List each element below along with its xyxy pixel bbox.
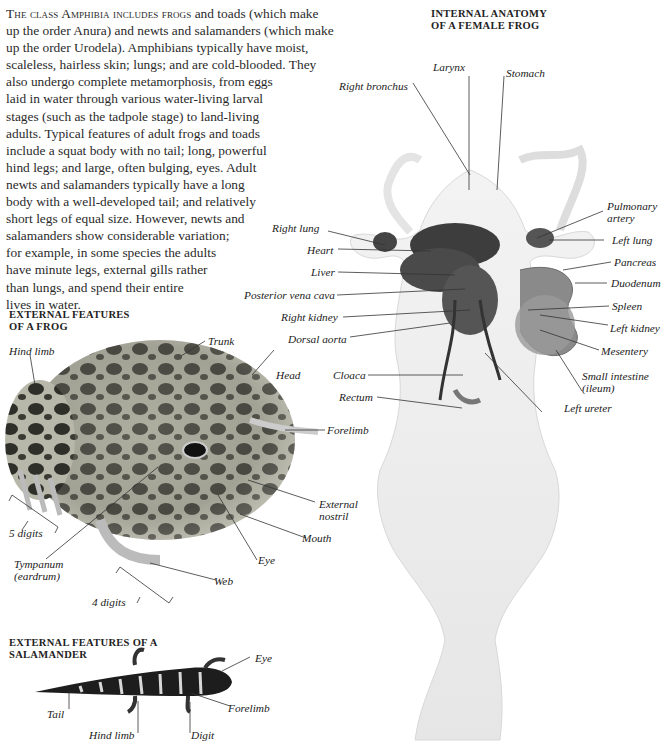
label-pulmonary-artery: Pulmonaryartery [607, 200, 657, 224]
intro-line: scaleless, hairless skin; lungs; and are… [6, 56, 336, 73]
label-pancreas: Pancreas [614, 256, 656, 268]
label-frog-hind-limb: Hind limb [9, 345, 55, 357]
label-heart: Heart [307, 244, 333, 256]
intro-line: have minute legs, external gills rather [6, 261, 336, 278]
label-posterior-vena-cava: Posterior vena cava [244, 289, 335, 301]
intro-line: stages (such as the tadpole stage) to la… [6, 108, 336, 125]
label-left-lung: Left lung [612, 234, 652, 246]
label-trunk: Trunk [208, 335, 234, 347]
frog-external-heading: EXTERNAL FEATURES OF A FROG [9, 309, 130, 332]
label-digit: Digit [191, 729, 214, 741]
label-head: Head [276, 369, 300, 381]
label-spleen: Spleen [612, 300, 642, 312]
intro-line: up the order Anura) and newts and salama… [6, 22, 336, 39]
intro-line: for example, in some species the adults [6, 244, 336, 261]
label-right-lung: Right lung [272, 222, 319, 234]
label-larynx: Larynx [433, 61, 465, 73]
label-cloaca: Cloaca [333, 369, 366, 381]
label-liver: Liver [311, 266, 335, 278]
label-stomach: Stomach [506, 67, 545, 79]
label-frog-forelimb: Forelimb [327, 424, 369, 436]
intro-line: adults. Typical features of adult frogs … [6, 125, 336, 142]
label-salamander-hind-limb: Hind limb [89, 729, 135, 741]
label-right-kidney: Right kidney [281, 311, 338, 323]
intro-line: body with a well-developed tail; and rel… [6, 193, 336, 210]
intro-line: hind legs; and large, often bulging, eye… [6, 159, 336, 176]
label-tail: Tail [47, 708, 64, 720]
label-five-digits: 5 digits [9, 527, 43, 539]
label-web: Web [214, 575, 233, 587]
intro-lead: The class Amphibia includes frogs [6, 6, 191, 21]
intro-line: newts and salamanders typically have a l… [6, 176, 336, 193]
label-small-intestine: Small intestine(ileum) [582, 370, 649, 394]
salamander-external-heading: EXTERNAL FEATURES OF A SALAMANDER [9, 637, 158, 660]
intro-line: include a squat body with no tail; long,… [6, 142, 336, 159]
label-mesentery: Mesentery [601, 345, 648, 357]
label-right-bronchus: Right bronchus [339, 80, 408, 92]
label-salamander-forelimb: Forelimb [228, 702, 270, 714]
intro-line: up the order Urodela). Amphibians typica… [6, 39, 336, 56]
label-frog-eye: Eye [258, 554, 275, 566]
label-left-ureter: Left ureter [564, 402, 612, 414]
label-left-kidney: Left kidney [610, 322, 660, 334]
intro-line-1: The class Amphibia includes frogs and to… [6, 5, 336, 22]
label-external-nostril: Externalnostril [319, 498, 358, 522]
dissected-frog-illustration [350, 150, 594, 740]
label-duodenum: Duodenum [611, 277, 661, 289]
label-mouth: Mouth [302, 532, 332, 544]
label-rectum: Rectum [339, 391, 373, 403]
intro-paragraph: The class Amphibia includes frogs and to… [6, 5, 336, 313]
horned-frog-photo [5, 340, 318, 560]
label-dorsal-aorta: Dorsal aorta [288, 333, 347, 345]
label-four-digits: 4 digits [92, 596, 126, 608]
label-tympanum: Tympanum(eardrum) [14, 558, 63, 582]
intro-line: also undergo complete metamorphosis, fro… [6, 73, 336, 90]
intro-line: laid in water through various water-livi… [6, 90, 336, 107]
label-salamander-eye: Eye [255, 652, 272, 664]
internal-anatomy-heading: INTERNAL ANATOMY OF A FEMALE FROG [431, 8, 547, 31]
